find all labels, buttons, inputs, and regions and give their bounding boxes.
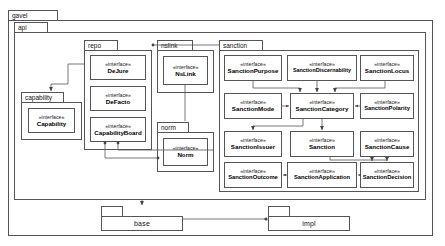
interface-nslink-name: NsLink — [175, 70, 196, 78]
package-base-tab — [101, 206, 123, 217]
package-norm-tab: norm — [157, 122, 189, 133]
interface-sanctioncause-name: SanctionCause — [365, 143, 410, 151]
interface-sanctionoutcome-name: SanctionOutcome — [228, 174, 278, 182]
interface-sanctionapplication[interactable]: «interface» SanctionApplication — [287, 162, 357, 188]
interface-capabilityboard[interactable]: «interface» CapabilityBoard — [90, 117, 146, 142]
interface-sanction-name: Sanction — [309, 143, 335, 151]
package-base-label: base — [134, 220, 150, 227]
interface-sanctiondecision[interactable]: «interface» SanctionDecision — [360, 162, 414, 188]
interface-sanctiondiscernability[interactable]: «interface» SanctionDiscernability — [287, 55, 357, 81]
interface-sanctiondiscernability-name: SanctionDiscernability — [293, 67, 351, 75]
interface-sanctioncategory-name: SanctionCategory — [296, 105, 349, 113]
interface-capabilityboard-name: CapabilityBoard — [94, 129, 141, 137]
package-nslink-tab: nslink — [157, 40, 193, 51]
interface-sanctioncategory[interactable]: «interface» SanctionCategory — [290, 93, 354, 119]
package-gavel-tab: gavel — [8, 10, 58, 21]
interface-sanctionlocus-name: SanctionLocus — [365, 67, 409, 75]
interface-capability-name: Capability — [37, 120, 67, 128]
interface-sanctionissuer-name: SanctionIssuer — [231, 143, 275, 151]
interface-capability[interactable]: «interface» Capability — [28, 108, 75, 133]
interface-norm[interactable]: «interface» Norm — [163, 138, 208, 166]
package-repo-tab: repo — [84, 40, 118, 51]
interface-sanctionmode[interactable]: «interface» SanctionMode — [224, 93, 282, 119]
interface-sanctionissuer[interactable]: «interface» SanctionIssuer — [224, 131, 282, 157]
package-capability-tab: capability — [21, 92, 64, 103]
interface-sanction[interactable]: «interface» Sanction — [290, 131, 354, 157]
interface-sanctionpolarity-name: SanctionPolarity — [364, 105, 410, 113]
package-base-body: base — [101, 216, 183, 231]
package-impl-body: impl — [268, 216, 350, 231]
interface-sanctioncause[interactable]: «interface» SanctionCause — [360, 131, 414, 157]
interface-sanctionpurpose[interactable]: «interface» SanctionPurpose — [224, 55, 282, 81]
interface-sanctionmode-name: SanctionMode — [232, 105, 274, 113]
interface-defacto-name: DeFacto — [106, 98, 130, 106]
interface-sanctiondecision-name: SanctionDecision — [363, 174, 412, 182]
interface-sanctionlocus[interactable]: «interface» SanctionLocus — [360, 55, 414, 81]
interface-sanctionpurpose-name: SanctionPurpose — [228, 67, 279, 75]
interface-sanctionoutcome[interactable]: «interface» SanctionOutcome — [224, 162, 282, 188]
package-impl-label: impl — [302, 220, 316, 227]
interface-nslink[interactable]: «interface» NsLink — [163, 56, 208, 85]
package-impl-tab — [268, 206, 290, 217]
interface-defacto[interactable]: «interface» DeFacto — [90, 86, 146, 111]
interface-sanctionapplication-name: SanctionApplication — [294, 174, 350, 182]
interface-dejure[interactable]: «interface» DeJure — [90, 55, 146, 80]
uml-package-diagram: gavel api capability «interface» Capabil… — [0, 0, 445, 246]
interface-sanctionpolarity[interactable]: «interface» SanctionPolarity — [360, 93, 414, 119]
package-api-tab: api — [14, 22, 48, 33]
package-sanction-tab: sanction — [219, 40, 263, 51]
interface-norm-name: Norm — [177, 151, 193, 159]
interface-dejure-name: DeJure — [108, 67, 129, 75]
